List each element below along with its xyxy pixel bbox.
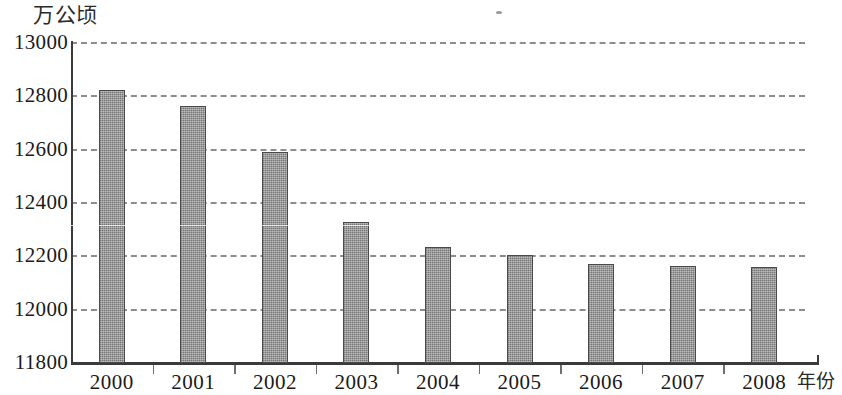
bar-series (0, 0, 842, 395)
scanline-artifact (71, 225, 805, 226)
bar-2004 (425, 247, 451, 363)
x-tick-label-2005: 2005 (479, 370, 561, 394)
bar-2008 (751, 267, 777, 363)
bar-2005 (507, 255, 533, 363)
bar-2007 (670, 266, 696, 363)
bar-2001 (180, 106, 206, 363)
x-tick-label-2006: 2006 (560, 370, 642, 394)
x-tick-label-2007: 2007 (642, 370, 724, 394)
x-tick-label-2002: 2002 (234, 370, 316, 394)
bar-2000 (99, 90, 125, 363)
x-tick-label-2008: 2008 (723, 370, 805, 394)
bar-2002 (262, 152, 288, 363)
bar-2006 (588, 264, 614, 363)
x-axis-unit-label: 年份 (797, 369, 835, 393)
x-tick-label-2001: 2001 (152, 370, 234, 394)
x-tick-label-2003: 2003 (315, 370, 397, 394)
x-tick-label-2004: 2004 (397, 370, 479, 394)
x-tick-label-2000: 2000 (71, 370, 153, 394)
bar-chart: 万公顷 11800120001220012400126001280013000 … (0, 0, 842, 395)
bar-2003 (343, 222, 369, 363)
